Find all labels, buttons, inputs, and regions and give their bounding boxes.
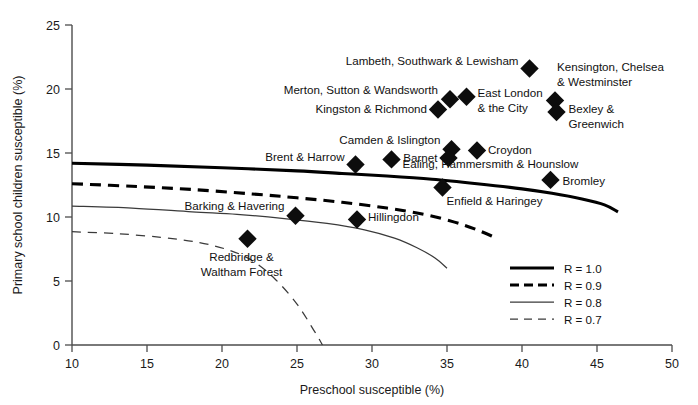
y-tick-label: 20: [46, 83, 60, 97]
data-point-label: Merton, Sutton & Wandsworth: [284, 83, 438, 96]
x-tick-label: 15: [140, 357, 154, 371]
data-point-label: Camden & Islington: [339, 133, 440, 146]
data-point-marker: [238, 230, 256, 248]
x-axis-title: Preschool susceptible (%): [300, 383, 445, 397]
curves-group: [72, 163, 618, 345]
y-tick-label: 25: [46, 19, 60, 33]
data-point-marker: [441, 90, 459, 108]
data-point-label: Enfield & Haringey: [447, 194, 543, 207]
y-tick-label: 10: [46, 211, 60, 225]
data-point-label: Hillingdon: [368, 210, 419, 223]
y-tick-label: 5: [53, 275, 60, 289]
y-tick-label: 0: [53, 339, 60, 353]
chart-figure: 101520253035404550 0510152025 Lambeth, S…: [0, 0, 698, 405]
data-point-marker: [346, 155, 364, 173]
x-tick-label: 50: [665, 357, 679, 371]
data-point-marker: [348, 210, 366, 228]
x-tick-label: 40: [515, 357, 529, 371]
data-point-label: Barking & Havering: [185, 199, 285, 212]
curve-r0.7: [72, 232, 323, 345]
legend-label: R = 0.7: [564, 313, 602, 326]
data-point-marker: [382, 150, 400, 168]
data-point-label: Bexley &Greenwich: [569, 102, 624, 130]
x-tick-label: 10: [65, 357, 79, 371]
data-point-label: East London& the City: [478, 86, 543, 114]
y-tick-group: 0510152025: [46, 19, 72, 353]
data-point-label: Kingston & Richmond: [316, 102, 428, 115]
x-tick-label: 45: [590, 357, 604, 371]
point-labels-group: Lambeth, Southwark & LewishamKensington,…: [185, 54, 665, 278]
data-point-label: Redbridge &Waltham Forest: [201, 250, 283, 278]
scatter-plot: 101520253035404550 0510152025 Lambeth, S…: [0, 0, 698, 405]
x-tick-label: 20: [215, 357, 229, 371]
data-point-label: Ealing, Hammersmith & Hounslow: [403, 157, 580, 170]
data-point-label: Kensington, Chelsea& Westminster: [557, 60, 665, 88]
x-tick-group: 101520253035404550: [65, 345, 679, 371]
data-point-marker: [547, 103, 565, 121]
legend-label: R = 1.0: [564, 262, 602, 275]
x-tick-label: 30: [365, 357, 379, 371]
data-point-marker: [286, 207, 304, 225]
legend: R = 1.0R = 0.9R = 0.8R = 0.7: [510, 262, 602, 326]
y-tick-label: 15: [46, 147, 60, 161]
y-axis-title: Primary school children susceptible (%): [11, 76, 25, 295]
data-point-label: Bromley: [563, 174, 606, 187]
x-tick-label: 25: [290, 357, 304, 371]
data-point-label: Croydon: [488, 143, 532, 156]
data-point-marker: [541, 171, 559, 189]
data-point-marker: [520, 59, 538, 77]
legend-label: R = 0.9: [564, 279, 602, 292]
legend-label: R = 0.8: [564, 296, 602, 309]
data-point-label: Lambeth, Southwark & Lewisham: [346, 54, 519, 67]
data-point-label: Brent & Harrow: [265, 150, 345, 163]
data-point-marker: [457, 87, 475, 105]
data-point-marker: [429, 100, 447, 118]
x-tick-label: 35: [440, 357, 454, 371]
